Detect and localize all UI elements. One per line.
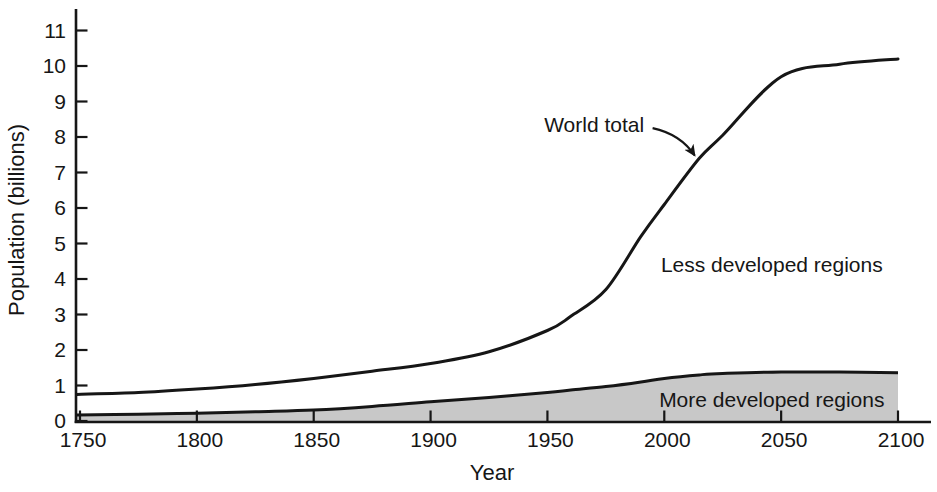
x-tick-label-1800: 1800 bbox=[176, 428, 223, 451]
x-tick-label-2050: 2050 bbox=[761, 428, 808, 451]
y-tick-label-8: 8 bbox=[54, 125, 66, 148]
y-tick-label-5: 5 bbox=[54, 232, 66, 255]
world-total-label: World total bbox=[544, 113, 644, 136]
y-tick-label-4: 4 bbox=[54, 267, 66, 290]
y-tick-label-1: 1 bbox=[54, 374, 66, 397]
y-tick-label-6: 6 bbox=[54, 196, 66, 219]
x-tick-label-2100: 2100 bbox=[878, 428, 925, 451]
x-tick-label-1750: 1750 bbox=[60, 428, 107, 451]
y-tick-label-3: 3 bbox=[54, 303, 66, 326]
y-axis-label: Population (billions) bbox=[4, 124, 29, 316]
y-tick-label-10: 10 bbox=[43, 54, 66, 77]
population-chart: 0123456789101117501800185019001950200020… bbox=[0, 0, 937, 492]
world-total-label-arrow bbox=[653, 128, 695, 155]
world-total-curve bbox=[77, 59, 898, 395]
more-developed-label: More developed regions bbox=[659, 388, 884, 411]
x-tick-label-1900: 1900 bbox=[410, 428, 457, 451]
less-developed-label: Less developed regions bbox=[661, 253, 883, 276]
x-axis-label: Year bbox=[470, 460, 514, 485]
x-tick-label-2000: 2000 bbox=[644, 428, 691, 451]
x-tick-label-1950: 1950 bbox=[527, 428, 574, 451]
x-tick-label-1850: 1850 bbox=[293, 428, 340, 451]
y-tick-label-11: 11 bbox=[44, 19, 66, 42]
y-tick-label-7: 7 bbox=[54, 161, 66, 184]
population-growth-figure: 0123456789101117501800185019001950200020… bbox=[0, 0, 937, 492]
y-tick-label-2: 2 bbox=[54, 338, 66, 361]
y-tick-label-9: 9 bbox=[54, 90, 66, 113]
